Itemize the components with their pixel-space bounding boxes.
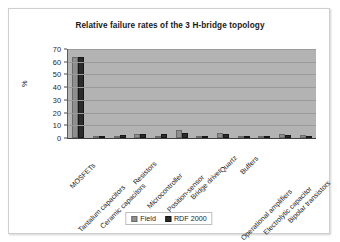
x-axis-tick-label: MOSFETs: [69, 162, 98, 191]
x-axis-tick-label: Quartz: [218, 154, 239, 175]
chart-legend: FieldRDF 2000: [125, 212, 212, 225]
y-axis-tick-label: 20: [53, 108, 61, 117]
bar: [264, 136, 270, 138]
y-axis-tick-label: 10: [53, 121, 61, 130]
gridline: [68, 49, 316, 50]
y-axis: 010203040506070: [37, 49, 63, 138]
bar: [120, 135, 126, 138]
y-axis-tick-label: 30: [53, 95, 61, 104]
y-axis-tick-label: 70: [53, 45, 61, 54]
bar: [202, 136, 208, 138]
y-axis-tick-label: 60: [53, 57, 61, 66]
plot-area: [67, 49, 316, 139]
gridline: [68, 113, 316, 114]
legend-entry[interactable]: Field: [131, 214, 156, 223]
bar: [140, 134, 146, 138]
bar: [182, 133, 188, 138]
gridline: [68, 62, 316, 63]
bar: [223, 134, 229, 138]
bar: [161, 134, 167, 138]
bar: [306, 136, 312, 138]
legend-label: RDF 2000: [174, 214, 207, 223]
chart-container: Relative failure rates of the 3 H-bridge…: [8, 8, 330, 234]
y-axis-tick-label: 0: [57, 134, 61, 143]
legend-swatch-icon: [165, 216, 171, 222]
bar: [244, 136, 250, 138]
x-axis-tick-label: Buffers: [238, 155, 259, 176]
bar: [285, 135, 291, 138]
x-axis-tick-label: Resistors: [132, 160, 159, 187]
y-axis-tick-label: 50: [53, 70, 61, 79]
legend-entry[interactable]: RDF 2000: [165, 214, 207, 223]
gridline: [68, 125, 316, 126]
legend-swatch-icon: [131, 216, 137, 222]
y-axis-tick-label: 40: [53, 83, 61, 92]
x-axis: MOSFETsTantalum capacitorsCeramic capaci…: [67, 139, 315, 211]
gridline: [68, 74, 316, 75]
gridline: [68, 87, 316, 88]
bar: [99, 136, 105, 138]
legend-label: Field: [140, 214, 156, 223]
y-axis-title: %: [20, 80, 29, 87]
chart-title: Relative failure rates of the 3 H-bridge…: [9, 21, 331, 30]
gridline: [68, 100, 316, 101]
